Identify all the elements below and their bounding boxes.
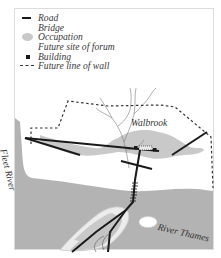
bridge-icon <box>20 23 38 33</box>
legend-label: Future line of wall <box>38 61 109 71</box>
legend-item-road: Road <box>20 13 115 23</box>
legend-item-wall: Future line of wall <box>20 61 115 71</box>
building-icon <box>134 146 138 150</box>
occupation-blob-icon <box>20 32 38 42</box>
forum-site <box>139 146 152 150</box>
walbrook-label: Walbrook <box>131 118 167 128</box>
building-square-icon <box>20 52 38 62</box>
road-line-icon <box>20 13 38 23</box>
dashed-line-icon <box>20 61 38 71</box>
roman-london-map: Road Bridge Occupation Future site of fo… <box>0 0 221 258</box>
forum-site-icon <box>20 42 38 52</box>
map-legend: Road Bridge Occupation Future site of fo… <box>20 13 115 71</box>
thames-island <box>139 217 157 228</box>
building-icon <box>153 148 157 152</box>
